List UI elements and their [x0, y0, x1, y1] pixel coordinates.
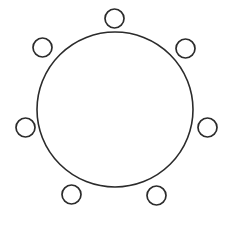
diagram-canvas — [0, 0, 229, 226]
circle-diagram — [0, 0, 229, 226]
canvas-background — [0, 0, 229, 226]
